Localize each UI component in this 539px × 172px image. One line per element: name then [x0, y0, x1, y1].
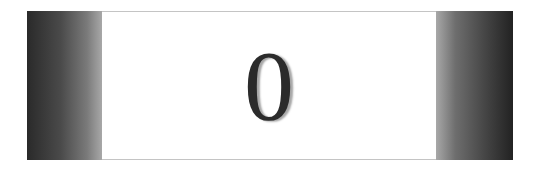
- character-card: 0: [102, 11, 436, 160]
- right-gradient-panel: [436, 11, 513, 160]
- character-glyph: 0: [244, 36, 294, 136]
- left-gradient-panel: [27, 11, 102, 160]
